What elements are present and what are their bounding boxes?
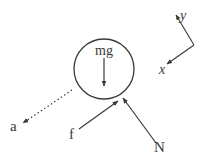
normal-arrow (123, 98, 156, 143)
friction-label: f (69, 126, 74, 142)
acceleration-label: a (10, 118, 17, 134)
y-axis-label: y (178, 8, 187, 23)
free-body-diagram: mg f N a y x (0, 0, 204, 160)
normal-label: N (154, 139, 165, 155)
x-axis-arrow (167, 45, 194, 64)
acceleration-arrow (23, 90, 72, 123)
x-axis-label: x (158, 62, 166, 77)
gravity-label: mg (95, 43, 113, 58)
friction-arrow (79, 101, 118, 129)
